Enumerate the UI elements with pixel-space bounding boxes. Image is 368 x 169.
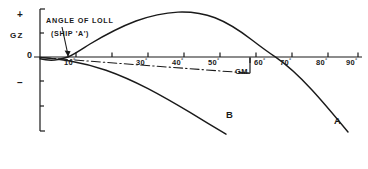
degree-symbol-icon: ° (263, 57, 266, 63)
x-axis (34, 53, 362, 58)
x-tick-label-70-value: 70 (280, 58, 289, 67)
x-tick-label-50-value: 50 (208, 58, 217, 67)
x-tick-label-40: 40° (172, 59, 183, 67)
gm-label: GM (235, 68, 248, 76)
x-tick-label-60: 60° (254, 59, 265, 67)
x-tick-label-80-value: 80 (316, 58, 325, 67)
x-tick-label-10: 10° (64, 59, 75, 67)
x-tick-label-30: 30° (136, 59, 147, 67)
y-axis-title: GZ (10, 32, 24, 40)
degree-symbol-icon: ° (73, 57, 76, 63)
x-tick-label-80: 80° (316, 59, 327, 67)
curve-b-label: B (226, 110, 233, 120)
degree-symbol-icon: ° (289, 57, 292, 63)
angle-of-loll-label-line1: ANGLE OF LOLL (46, 17, 114, 24)
gz-curve-figure: + GZ 0 – ANGLE OF LOLL (SHIP 'A') 10° 30… (0, 0, 368, 169)
angle-of-loll-label-line2: (SHIP 'A') (51, 30, 89, 37)
curve-a-label: A (334, 116, 341, 126)
degree-symbol-icon: ° (217, 57, 220, 63)
degree-symbol-icon: ° (145, 57, 148, 63)
x-tick-label-30-value: 30 (136, 58, 145, 67)
x-tick-label-90: 90° (346, 59, 357, 67)
y-axis-negative-sign: – (17, 78, 23, 88)
x-tick-label-50: 50° (208, 59, 219, 67)
x-tick-label-10-value: 10 (64, 58, 73, 67)
y-axis-positive-sign: + (17, 10, 23, 20)
x-tick-label-70: 70° (280, 59, 291, 67)
degree-symbol-icon: ° (355, 57, 358, 63)
x-tick-label-40-value: 40 (172, 58, 181, 67)
degree-symbol-icon: ° (325, 57, 328, 63)
y-axis-zero-label: 0 (27, 51, 32, 60)
y-axis (40, 9, 45, 131)
x-tick-label-90-value: 90 (346, 58, 355, 67)
degree-symbol-icon: ° (181, 57, 184, 63)
x-tick-label-60-value: 60 (254, 58, 263, 67)
chart-canvas (0, 0, 368, 169)
